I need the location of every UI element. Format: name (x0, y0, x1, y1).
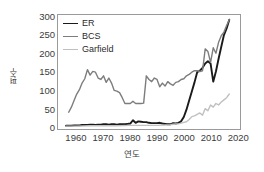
y-axis-title: 편수 (10, 68, 22, 84)
y-tick-label: 0 (0, 123, 55, 132)
legend-swatch-er-icon (63, 23, 78, 24)
y-tick-label: 100 (0, 85, 55, 94)
line-chart-figure: 050100150200250300 편수 ERBCSGarfield 1960… (0, 0, 264, 172)
legend-swatch-garfield-icon (63, 49, 78, 50)
legend-label: Garfield (82, 44, 114, 54)
y-tick-label: 50 (0, 104, 55, 113)
legend-label: ER (82, 18, 95, 28)
legend-swatch-bcs-icon (63, 36, 78, 37)
legend-item-bcs[interactable]: BCS (63, 30, 125, 42)
series-line-garfield (66, 94, 229, 126)
chart-legend: ERBCSGarfield (63, 17, 125, 56)
y-tick-label: 200 (0, 48, 55, 57)
x-axis-title: 연도 (0, 150, 264, 159)
legend-item-er[interactable]: ER (63, 17, 125, 29)
x-tick-label: 2020 (221, 133, 255, 143)
x-axis-tick-labels: 1960197019801990200020102020 (0, 133, 264, 147)
legend-item-garfield[interactable]: Garfield (63, 43, 125, 55)
y-tick-label: 250 (0, 30, 55, 39)
legend-label: BCS (82, 31, 101, 41)
y-tick-label: 300 (0, 11, 55, 20)
